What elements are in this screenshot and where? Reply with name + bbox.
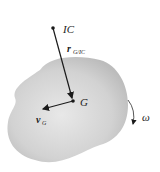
rigid-body-shape [7, 57, 128, 162]
v-subscript: G [42, 120, 47, 126]
angular-velocity-arrow [128, 100, 134, 124]
ic-label: IC [62, 23, 75, 35]
rigid-body-diagram: IC r G/IC G v G ω [0, 0, 160, 172]
center-of-mass-point [71, 99, 75, 103]
omega-label: ω [142, 111, 150, 123]
r-subscript: G/IC [73, 49, 86, 55]
r-label: r [67, 43, 71, 54]
v-label: v [36, 114, 41, 125]
g-label: G [80, 96, 88, 108]
ic-point [51, 26, 55, 30]
